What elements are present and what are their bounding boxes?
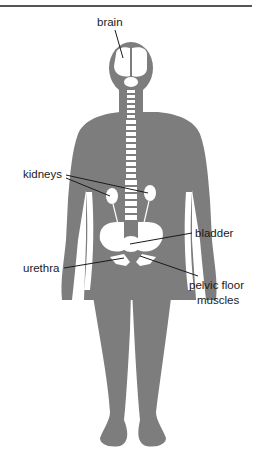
label-pelvic-floor: pelvic floor — [189, 279, 244, 292]
label-pelvic-floor-muscles: muscles — [197, 294, 239, 307]
label-kidneys: kidneys — [23, 168, 62, 181]
label-urethra: urethra — [23, 262, 59, 275]
label-brain: brain — [97, 16, 123, 29]
label-bladder: bladder — [195, 227, 233, 240]
brain-right — [132, 47, 147, 76]
